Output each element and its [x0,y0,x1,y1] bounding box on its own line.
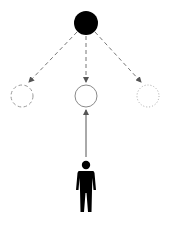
person-icon [76,161,96,212]
option-node-left-dashed [11,85,33,107]
option-node-middle-solid [75,85,97,107]
diagram-canvas [0,0,173,227]
diagram-svg [0,0,173,227]
option-node-right-dotted [137,85,159,107]
edge-source-left [29,32,77,82]
source-node [74,11,98,35]
edge-source-right [95,32,141,82]
